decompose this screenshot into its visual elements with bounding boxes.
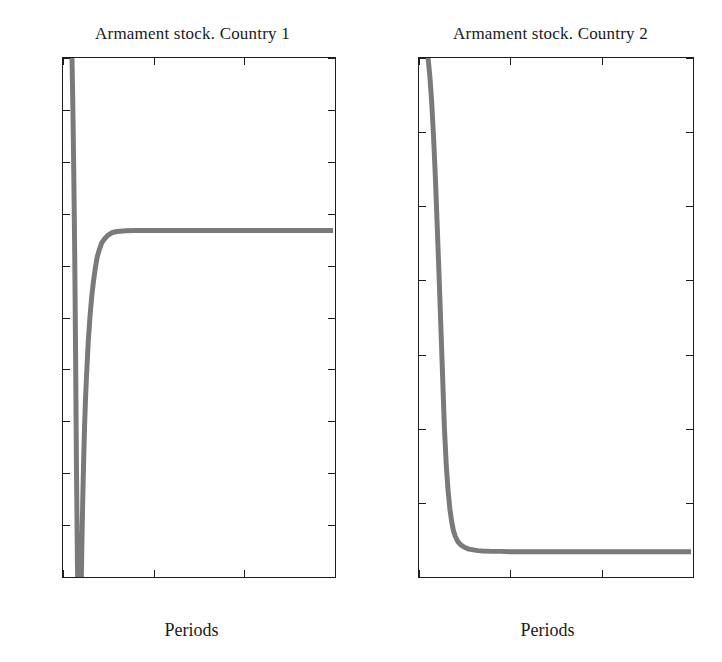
series-path-country-1-0 bbox=[72, 58, 333, 577]
y-tick-country-1-9 bbox=[328, 110, 336, 111]
x-tick-country-1-2 bbox=[244, 57, 245, 65]
x-tick-country-1-3 bbox=[335, 57, 336, 65]
plot-area-country-2: 2.62.833.23.43.63.840102030 bbox=[418, 57, 694, 578]
y-tick-country-2-5 bbox=[686, 206, 694, 207]
y-tick-country-1-6 bbox=[62, 266, 70, 267]
figure-page: Armament stock. Country 1 22.22.42.62.83… bbox=[0, 0, 722, 662]
y-tick-country-1-3 bbox=[62, 421, 70, 422]
y-tick-country-2-2 bbox=[418, 429, 426, 430]
x-tick-country-2-0 bbox=[419, 570, 420, 578]
plot-line-country-2 bbox=[419, 58, 693, 577]
y-tick-country-1-0 bbox=[62, 577, 70, 578]
y-tick-country-2-5 bbox=[418, 206, 426, 207]
y-tick-country-2-1 bbox=[418, 503, 426, 504]
x-tick-country-1-1 bbox=[154, 570, 155, 578]
y-tick-country-1-1 bbox=[328, 525, 336, 526]
chart-country-1: Armament stock. Country 1 22.22.42.62.83… bbox=[0, 0, 361, 662]
y-tick-country-1-9 bbox=[62, 110, 70, 111]
y-tick-country-1-7 bbox=[62, 214, 70, 215]
chart-title-country-2: Armament stock. Country 2 bbox=[361, 24, 722, 44]
y-tick-country-2-4 bbox=[686, 280, 694, 281]
x-tick-country-1-0 bbox=[63, 57, 64, 65]
y-tick-country-2-4 bbox=[418, 280, 426, 281]
x-tick-country-2-1 bbox=[510, 57, 511, 65]
y-tick-country-1-5 bbox=[62, 318, 70, 319]
x-tick-country-2-1 bbox=[510, 570, 511, 578]
y-tick-country-2-2 bbox=[686, 429, 694, 430]
y-tick-country-1-8 bbox=[328, 162, 336, 163]
x-axis-caption-country-1: Periods bbox=[0, 620, 361, 641]
y-tick-country-1-4 bbox=[62, 369, 70, 370]
x-axis-caption-country-2: Periods bbox=[361, 620, 722, 641]
x-tick-country-1-3 bbox=[335, 570, 336, 578]
y-tick-country-1-5 bbox=[328, 318, 336, 319]
y-tick-country-1-7 bbox=[328, 214, 336, 215]
plot-area-country-1: 22.22.42.62.833.23.43.63.840102030 bbox=[62, 57, 336, 578]
y-tick-country-1-2 bbox=[328, 473, 336, 474]
chart-country-2: Armament stock. Country 2 2.62.833.23.43… bbox=[361, 0, 722, 662]
y-tick-country-1-4 bbox=[328, 369, 336, 370]
y-tick-country-1-2 bbox=[62, 473, 70, 474]
y-tick-country-1-3 bbox=[328, 421, 336, 422]
y-tick-country-2-6 bbox=[418, 132, 426, 133]
x-tick-country-1-1 bbox=[154, 57, 155, 65]
y-tick-country-2-3 bbox=[686, 355, 694, 356]
x-tick-country-2-3 bbox=[693, 570, 694, 578]
y-tick-country-2-3 bbox=[418, 355, 426, 356]
y-tick-country-2-0 bbox=[418, 577, 426, 578]
x-tick-country-1-2 bbox=[244, 570, 245, 578]
x-tick-country-1-0 bbox=[63, 570, 64, 578]
plot-line-country-1 bbox=[63, 58, 335, 577]
y-tick-country-1-6 bbox=[328, 266, 336, 267]
chart-title-country-1: Armament stock. Country 1 bbox=[0, 24, 361, 44]
series-path-country-2-0 bbox=[428, 58, 691, 552]
x-tick-country-2-2 bbox=[602, 570, 603, 578]
x-tick-country-2-0 bbox=[419, 57, 420, 65]
y-tick-country-2-1 bbox=[686, 503, 694, 504]
x-tick-country-2-2 bbox=[602, 57, 603, 65]
x-tick-country-2-3 bbox=[693, 57, 694, 65]
y-tick-country-1-0 bbox=[328, 577, 336, 578]
y-tick-country-2-0 bbox=[686, 577, 694, 578]
y-tick-country-1-1 bbox=[62, 525, 70, 526]
y-tick-country-2-6 bbox=[686, 132, 694, 133]
y-tick-country-1-8 bbox=[62, 162, 70, 163]
